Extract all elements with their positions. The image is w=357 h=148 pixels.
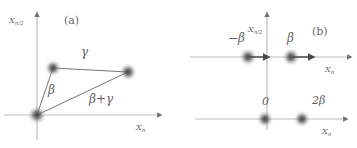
label-beta-plus-gamma: β+γ bbox=[89, 93, 113, 105]
figure-text-layer: Xn/2 Xn (a) β γ β+γ Xn/2 Xn Xn (b) −β β … bbox=[0, 0, 357, 148]
label-beta-upper: β bbox=[287, 32, 294, 44]
figure-canvas: Xn/2 Xn (a) β γ β+γ Xn/2 Xn Xn (b) −β β … bbox=[0, 0, 357, 148]
label-minus-beta: −β bbox=[228, 32, 245, 44]
label-zero: 0 bbox=[262, 96, 269, 107]
label-beta: β bbox=[48, 84, 55, 96]
panel-b-lower-x-axis-label: Xn bbox=[322, 128, 331, 138]
label-gamma: γ bbox=[81, 46, 88, 58]
label-two-beta: 2β bbox=[312, 95, 325, 106]
panel-a-label: (a) bbox=[64, 15, 79, 26]
panel-b-y-axis-label: Xn/2 bbox=[248, 26, 263, 36]
panel-a-x-axis-label: Xn bbox=[136, 124, 145, 134]
panel-b-label: (b) bbox=[312, 26, 328, 37]
panel-b-upper-x-axis-label: Xn bbox=[325, 66, 334, 76]
panel-a-y-axis-label: Xn/2 bbox=[9, 17, 24, 27]
